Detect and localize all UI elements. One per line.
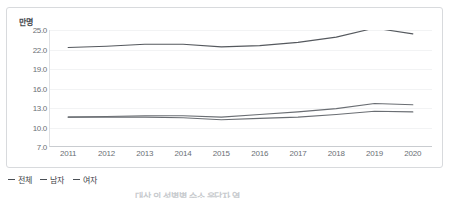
chart-series-lines (49, 30, 432, 147)
legend-line-icon (8, 179, 15, 180)
series-line-전체 (68, 30, 413, 48)
y-axis-tick: 13.0 (11, 104, 47, 113)
series-line-남자 (68, 103, 413, 117)
x-axis-tick: 2013 (136, 149, 153, 158)
x-axis-tick: 2011 (60, 149, 76, 158)
y-axis-tick: 7.0 (11, 143, 47, 152)
legend-item-여자[interactable]: 여자 (73, 174, 96, 185)
x-axis-tick: 2014 (175, 149, 192, 158)
footer-caption: 대상 의 성별별 수소 응답자 열 (135, 190, 240, 198)
x-axis-tick: 2015 (213, 149, 230, 158)
x-axis-tick: 2016 (251, 149, 268, 158)
x-axis-tick-labels: 2011201220132014201520162017201820192020 (49, 149, 432, 165)
legend-label: 전체 (18, 174, 31, 185)
legend-line-icon (73, 179, 80, 180)
chart-card: 만명 25.022.019.016.013.010.07.0 201120122… (6, 7, 443, 168)
legend-item-남자[interactable]: 남자 (40, 174, 63, 185)
x-axis-tick: 2018 (328, 149, 345, 158)
legend-label: 여자 (83, 174, 96, 185)
x-axis-tick: 2012 (98, 149, 115, 158)
x-axis-tick: 2019 (366, 149, 383, 158)
y-axis-tick: 19.0 (11, 65, 47, 74)
legend-item-전체[interactable]: 전체 (8, 174, 31, 185)
x-axis-tick: 2020 (404, 149, 421, 158)
chart-legend: 전체남자여자 (8, 174, 96, 185)
y-axis-tick: 22.0 (11, 45, 47, 54)
legend-label: 남자 (50, 174, 63, 185)
y-axis-tick: 25.0 (11, 26, 47, 35)
y-axis-tick: 16.0 (11, 84, 47, 93)
y-axis-tick: 10.0 (11, 123, 47, 132)
y-axis-tick-labels: 25.022.019.016.013.010.07.0 (7, 8, 47, 169)
x-axis-tick: 2017 (289, 149, 306, 158)
legend-line-icon (40, 179, 47, 180)
